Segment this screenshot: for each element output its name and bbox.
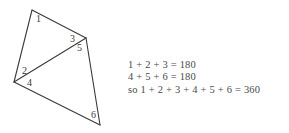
- proof-line-2: 4 + 5 + 6 = 180: [128, 71, 288, 83]
- proof-text-block: 1 + 2 + 3 = 180 4 + 5 + 6 = 180 so 1 + 2…: [128, 59, 288, 96]
- proof-line-3: so 1 + 2 + 3 + 4 + 5 + 6 = 360: [128, 84, 288, 96]
- geometry-figure: 1 2 3 4 5 6 1 + 2 + 3 = 180 4 + 5 + 6 = …: [0, 0, 289, 133]
- angle-label-5: 5: [77, 42, 82, 53]
- angle-label-6: 6: [91, 109, 96, 120]
- angle-label-4: 4: [27, 77, 32, 88]
- angle-label-2: 2: [22, 65, 27, 76]
- angle-label-1: 1: [36, 13, 41, 24]
- proof-line-1: 1 + 2 + 3 = 180: [128, 59, 288, 71]
- angle-label-3: 3: [70, 33, 75, 44]
- quadrilateral-diagram: 1 2 3 4 5 6: [0, 0, 145, 133]
- edge-left-bottom-line: [14, 82, 100, 125]
